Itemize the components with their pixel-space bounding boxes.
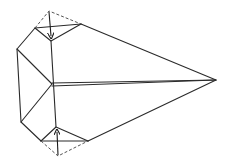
- top-fold-flap: [35, 11, 81, 41]
- origami-diagram: Origami folding step: fold top and botto…: [0, 0, 229, 163]
- bottom-fold-flap: [41, 127, 88, 156]
- fold-down-arrow-icon: [49, 12, 51, 36]
- fold-up-arrow-icon: [57, 132, 58, 155]
- inner-creases: [17, 41, 56, 127]
- center-crease: [52, 80, 216, 86]
- kite-outline: [17, 24, 216, 141]
